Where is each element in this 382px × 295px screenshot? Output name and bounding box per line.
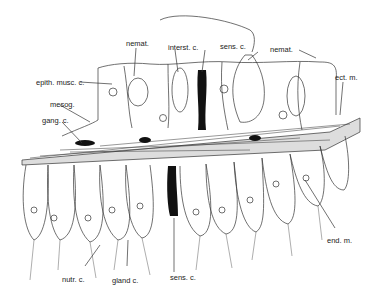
label-sens-c-bottom: sens. c. bbox=[170, 274, 196, 282]
ectoderm-surface bbox=[98, 61, 336, 115]
label-end-m: end. m. bbox=[327, 237, 352, 245]
label-nemat-right: nemat. bbox=[270, 46, 293, 54]
label-sens-c-top: sens. c. bbox=[220, 43, 246, 51]
label-ect-m: ect. m. bbox=[335, 74, 358, 82]
label-epith-musc-c: epith. musc. c. bbox=[36, 79, 84, 87]
label-mesog: mesog. bbox=[50, 101, 75, 109]
label-interst-c: interst. c. bbox=[168, 44, 198, 52]
label-nemat-left: nemat. bbox=[126, 40, 149, 48]
label-gland-c: gland c. bbox=[112, 277, 138, 285]
label-gang-c: gang. c. bbox=[42, 117, 69, 125]
label-nutr-c: nutr. c. bbox=[62, 276, 85, 284]
